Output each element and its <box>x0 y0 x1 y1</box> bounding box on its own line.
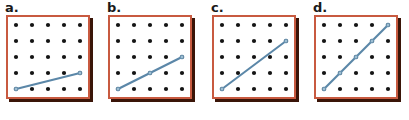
peg-dot <box>252 23 256 27</box>
peg-dot <box>354 71 358 75</box>
peg-dot <box>132 87 136 91</box>
peg-dot <box>268 71 272 75</box>
peg-dot <box>386 71 390 75</box>
panel-b: b. <box>102 0 202 120</box>
peg-dot <box>148 39 152 43</box>
panel-label: b. <box>107 0 121 15</box>
segment-node <box>322 87 326 91</box>
peg-dot <box>30 71 34 75</box>
peg-dot <box>252 39 256 43</box>
peg-dot <box>386 55 390 59</box>
peg-dot <box>252 71 256 75</box>
peg-dot <box>116 23 120 27</box>
peg-dot <box>116 55 120 59</box>
segment-node <box>370 39 374 43</box>
peg-dot <box>78 55 82 59</box>
board-canvas <box>110 17 190 97</box>
segment-node <box>220 87 224 91</box>
peg-dot <box>220 39 224 43</box>
peg-dot <box>354 39 358 43</box>
peg-dot <box>78 23 82 27</box>
geoboard-figure: a.b.c.d. <box>0 0 409 120</box>
geoboard <box>212 15 296 99</box>
peg-dot <box>62 55 66 59</box>
peg-dot <box>268 23 272 27</box>
peg-dot <box>284 71 288 75</box>
geoboard <box>6 15 90 99</box>
peg-dot <box>268 87 272 91</box>
panel-c: c. <box>206 0 306 120</box>
panel-a: a. <box>0 0 100 120</box>
peg-dot <box>132 23 136 27</box>
peg-dot <box>236 71 240 75</box>
segment-node <box>148 71 152 75</box>
peg-dot <box>14 39 18 43</box>
peg-dot <box>322 55 326 59</box>
peg-dot <box>284 55 288 59</box>
peg-dot <box>252 55 256 59</box>
peg-dot <box>62 71 66 75</box>
peg-dot <box>132 71 136 75</box>
peg-dot <box>46 71 50 75</box>
geoboard <box>108 15 192 99</box>
peg-dot <box>322 23 326 27</box>
peg-dot <box>252 87 256 91</box>
peg-dot <box>46 87 50 91</box>
peg-dot <box>284 87 288 91</box>
segment-node <box>338 71 342 75</box>
panel-label: d. <box>313 0 327 15</box>
peg-dot <box>370 87 374 91</box>
peg-dot <box>116 71 120 75</box>
peg-dot <box>14 71 18 75</box>
peg-dot <box>46 39 50 43</box>
peg-dot <box>46 23 50 27</box>
slope-segment <box>222 41 286 89</box>
peg-dot <box>62 23 66 27</box>
peg-dot <box>164 87 168 91</box>
peg-dot <box>386 39 390 43</box>
peg-dot <box>236 87 240 91</box>
segment-node <box>116 87 120 91</box>
peg-dot <box>236 23 240 27</box>
peg-dot <box>220 23 224 27</box>
peg-dot <box>78 87 82 91</box>
peg-dot <box>236 55 240 59</box>
peg-dot <box>180 23 184 27</box>
peg-dot <box>322 71 326 75</box>
peg-dot <box>180 39 184 43</box>
slope-segment <box>16 73 80 89</box>
peg-dot <box>268 55 272 59</box>
peg-dot <box>338 39 342 43</box>
peg-dot <box>14 55 18 59</box>
segment-node <box>78 71 82 75</box>
segment-node <box>284 39 288 43</box>
peg-dot <box>338 55 342 59</box>
peg-dot <box>164 23 168 27</box>
peg-dot <box>354 87 358 91</box>
segment-node <box>354 55 358 59</box>
board-canvas <box>214 17 294 97</box>
peg-dot <box>220 55 224 59</box>
board-canvas <box>8 17 88 97</box>
peg-dot <box>164 39 168 43</box>
peg-dot <box>220 71 224 75</box>
peg-dot <box>148 23 152 27</box>
peg-dot <box>62 39 66 43</box>
peg-dot <box>354 23 358 27</box>
segment-node <box>180 55 184 59</box>
peg-dot <box>132 55 136 59</box>
segment-node <box>386 23 390 27</box>
peg-dot <box>30 87 34 91</box>
panel-label: a. <box>5 0 19 15</box>
peg-dot <box>338 87 342 91</box>
peg-dot <box>164 55 168 59</box>
peg-dot <box>386 87 390 91</box>
peg-dot <box>148 55 152 59</box>
peg-dot <box>164 71 168 75</box>
peg-dot <box>268 39 272 43</box>
peg-dot <box>132 39 136 43</box>
peg-dot <box>322 39 326 43</box>
segment-node <box>14 87 18 91</box>
peg-dot <box>14 23 18 27</box>
peg-dot <box>370 23 374 27</box>
